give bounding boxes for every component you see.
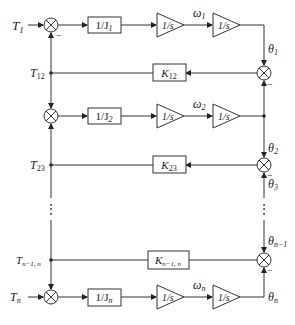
integrator-label: 1/s xyxy=(162,111,174,122)
minus-sign: − xyxy=(267,265,273,276)
integrator-label: 1/s xyxy=(218,111,230,122)
theta-n-label: θn xyxy=(268,290,278,305)
t23-label: T23 xyxy=(30,158,45,173)
theta1-line xyxy=(240,25,264,65)
row-1: T1 − 1/J1 1/s ω1 1/s θ1 xyxy=(12,6,278,65)
t-n-1-n-label: Tn−1, n xyxy=(16,254,41,268)
integrator-label: 1/s xyxy=(162,292,174,303)
sum-junction-2 xyxy=(44,109,58,123)
coupled-inertia-block-diagram: T1 − 1/J1 1/s ω1 1/s θ1 − K12 T12 xyxy=(0,0,295,325)
t12-label: T12 xyxy=(30,66,45,81)
theta-2-label: θ2 xyxy=(268,141,278,156)
row-n: Tn 1/Jn 1/s ωn 1/s θn xyxy=(10,278,278,309)
theta-1-label: θ1 xyxy=(268,42,278,57)
sum-junction-n xyxy=(44,290,58,304)
coupling-12: − K12 T12 xyxy=(30,33,273,116)
theta-n-line xyxy=(240,268,264,297)
sum-junction-theta-12 xyxy=(257,66,271,80)
omega-2-label: ω2 xyxy=(193,97,205,112)
integrator-label: 1/s xyxy=(218,20,230,31)
omega-n-label: ωn xyxy=(193,278,205,293)
minus-sign: − xyxy=(267,79,273,90)
integrator-label: 1/s xyxy=(218,292,230,303)
coupling-23: − K23 T23 θ3 xyxy=(30,124,278,198)
row-2: 1/J2 1/s ω2 1/s θ2 xyxy=(44,97,278,157)
left-ellipsis: ⋮ xyxy=(45,202,57,216)
input-label-tn: Tn xyxy=(10,290,21,305)
omega-1-label: ω1 xyxy=(193,6,205,21)
theta-3-label: θ3 xyxy=(268,177,278,192)
input-label-t1: T1 xyxy=(12,18,24,35)
right-ellipsis: ⋮ xyxy=(258,202,270,216)
coupling-n-1-n: θn−1 − Kn−1, n Tn−1, n xyxy=(16,220,287,297)
integrator-label: 1/s xyxy=(162,20,174,31)
minus-sign: − xyxy=(56,30,62,41)
theta-n-1-label: θn−1 xyxy=(268,234,287,249)
